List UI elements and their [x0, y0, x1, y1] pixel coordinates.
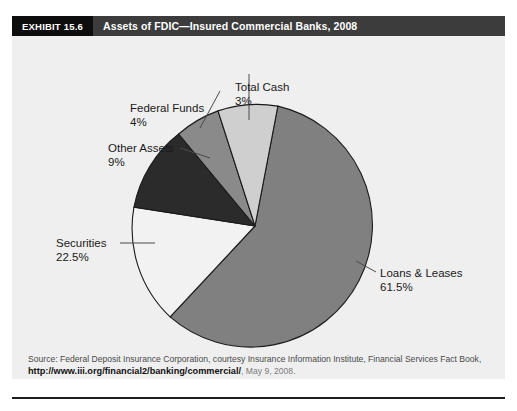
bottom-divider-rule	[12, 397, 505, 399]
pie-label-total-cash: Total Cash 3%	[235, 80, 289, 108]
pie-label-securities: Securities 22.5%	[56, 236, 107, 264]
source-date: , May 9, 2008.	[241, 366, 295, 376]
pie-label-total-cash-name: Total Cash	[235, 80, 289, 94]
pie-label-loans-leases: Loans & Leases 61.5%	[380, 266, 462, 294]
pie-label-other-assets-name: Other Assets	[108, 141, 174, 155]
source-line-1: Source: Federal Deposit Insurance Corpor…	[28, 354, 489, 365]
pie-chart-area: Total Cash 3% Federal Funds 4% Other Ass…	[12, 36, 505, 354]
pie-label-other-assets: Other Assets 9%	[108, 141, 174, 169]
exhibit-header: EXHIBIT 15.6 Assets of FDIC—Insured Comm…	[12, 16, 505, 36]
exhibit-number-badge: EXHIBIT 15.6	[12, 16, 93, 36]
pie-label-federal-funds: Federal Funds 4%	[130, 101, 204, 129]
pie-label-securities-value: 22.5%	[56, 250, 107, 264]
source-url-link[interactable]: http://www.iii.org/financial2/banking/co…	[28, 366, 241, 376]
pie-label-loans-leases-value: 61.5%	[380, 280, 462, 294]
pie-label-loans-leases-name: Loans & Leases	[380, 266, 462, 280]
pie-label-other-assets-value: 9%	[108, 155, 174, 169]
exhibit-card: EXHIBIT 15.6 Assets of FDIC—Insured Comm…	[12, 16, 505, 379]
exhibit-title: Assets of FDIC—Insured Commercial Banks,…	[93, 16, 505, 36]
exhibit-source-note: Source: Federal Deposit Insurance Corpor…	[12, 354, 505, 379]
pie-label-federal-funds-value: 4%	[130, 115, 204, 129]
source-line-2: http://www.iii.org/financial2/banking/co…	[28, 365, 489, 377]
pie-label-total-cash-value: 3%	[235, 94, 289, 108]
pie-label-federal-funds-name: Federal Funds	[130, 101, 204, 115]
exhibit-screenshot: EXHIBIT 15.6 Assets of FDIC—Insured Comm…	[0, 0, 517, 411]
pie-label-securities-name: Securities	[56, 236, 107, 250]
